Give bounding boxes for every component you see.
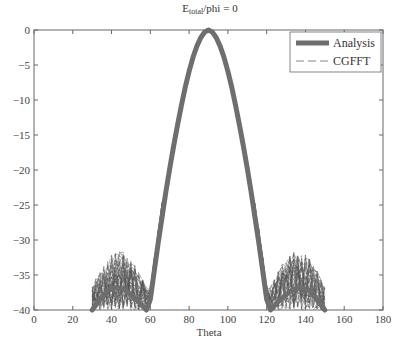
y-tick-label: −5 (18, 59, 30, 71)
x-tick-label: 80 (184, 313, 196, 325)
x-tick-label: 100 (220, 313, 237, 325)
x-axis-label: Theta (196, 326, 221, 338)
y-tick-label: −10 (13, 94, 31, 106)
x-tick-label: 120 (258, 313, 275, 325)
y-tick-label: −40 (13, 304, 31, 316)
y-tick-labels: 0−5−10−15−20−25−30−35−40 (13, 24, 31, 316)
legend-analysis-label: Analysis (333, 36, 375, 50)
y-tick-label: 0 (25, 24, 31, 36)
legend: Analysis CGFFT (290, 32, 381, 72)
x-tick-label: 160 (336, 313, 353, 325)
x-tick-label: 180 (375, 313, 392, 325)
y-tick-label: −35 (13, 269, 31, 281)
legend-cgfft-label: CGFFT (333, 54, 371, 68)
y-tick-label: −30 (13, 234, 31, 246)
x-tick-label: 40 (106, 313, 118, 325)
chart-title: Etotal/phi = 0 (182, 2, 238, 16)
x-tick-labels: 020406080100120140160180 (31, 313, 392, 325)
chart: 020406080100120140160180 0−5−10−15−20−25… (0, 0, 403, 351)
x-tick-label: 20 (67, 313, 79, 325)
x-tick-label: 0 (31, 313, 37, 325)
y-tick-label: −25 (13, 199, 31, 211)
x-tick-label: 140 (297, 313, 314, 325)
y-tick-label: −15 (13, 129, 31, 141)
x-tick-label: 60 (145, 313, 157, 325)
y-tick-label: −20 (13, 164, 31, 176)
